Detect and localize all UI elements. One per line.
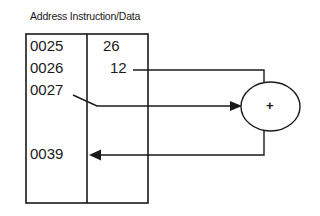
value-0026: 12 [110,60,127,75]
address-0027: 0027 [30,82,63,97]
result-line [100,131,264,155]
plus-icon: + [266,99,274,112]
arrowhead-to-adder [230,101,242,111]
address-0026: 0026 [30,60,63,75]
address-0039: 0039 [30,146,63,161]
operand-line-12 [133,70,264,82]
value-0025: 26 [103,38,120,53]
arrowhead-to-0039 [89,150,101,161]
operand-line-0027 [73,95,232,106]
address-0025: 0025 [30,38,63,53]
